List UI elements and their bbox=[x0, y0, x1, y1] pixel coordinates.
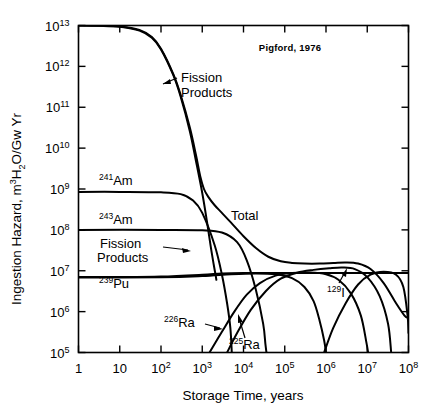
label-i129: 129I bbox=[327, 284, 345, 300]
ingestion-hazard-chart: Ingestion Hazard, m3H2O/Gw Yr Storage Ti… bbox=[0, 0, 435, 416]
x-axis-title: Storage Time, years bbox=[183, 388, 304, 403]
x-tick-label: 107 bbox=[358, 360, 377, 376]
annotation-fission-products-low: Fission Products bbox=[97, 236, 191, 265]
y-tick-label: 1010 bbox=[45, 140, 69, 156]
y-tick-label: 109 bbox=[50, 181, 69, 197]
fp-low-line2: Products bbox=[97, 250, 149, 265]
y-tick-label: 1012 bbox=[45, 58, 69, 74]
credit-note: Pigford, 1976 bbox=[259, 42, 321, 53]
fp-low-line1: Fission bbox=[100, 236, 141, 251]
fp-top-line2: Products bbox=[181, 85, 233, 100]
label-ra225: 225Ra bbox=[229, 336, 261, 352]
x-tick-label: 104 bbox=[234, 360, 253, 376]
y-tick-label: 108 bbox=[50, 222, 69, 238]
label-am243: 243Am bbox=[99, 211, 133, 227]
x-tick-label: 102 bbox=[151, 360, 170, 376]
x-tick-label: 103 bbox=[193, 360, 212, 376]
x-tick-label: 108 bbox=[399, 360, 418, 376]
label-pu239: 239Pu bbox=[99, 275, 129, 291]
y-tick-label: 1013 bbox=[45, 18, 69, 34]
svg-text:Ingestion Hazard, m3H2O/Gw Yr: Ingestion Hazard, m3H2O/Gw Yr bbox=[8, 112, 27, 305]
axis-ticks bbox=[79, 26, 409, 353]
y-axis-title-main: Ingestion Hazard, m bbox=[9, 184, 24, 305]
figure-container: Ingestion Hazard, m3H2O/Gw Yr Storage Ti… bbox=[0, 0, 435, 416]
y-tick-label: 107 bbox=[50, 263, 69, 279]
label-am241: 241Am bbox=[99, 172, 133, 188]
y-tick-label: 1011 bbox=[46, 99, 70, 115]
x-tick-label: 10 bbox=[113, 361, 127, 376]
fp-top-line1: Fission bbox=[181, 70, 222, 85]
annotation-ra226: 226Ra bbox=[164, 314, 223, 331]
data-curves bbox=[79, 26, 409, 353]
y-axis-title: Ingestion Hazard, m3H2O/Gw Yr bbox=[8, 112, 27, 305]
x-tick-label: 105 bbox=[275, 360, 294, 376]
plot-frame bbox=[79, 26, 409, 353]
label-total: Total bbox=[231, 208, 259, 223]
y-tick-label: 106 bbox=[50, 304, 69, 320]
x-tick-label: 106 bbox=[316, 360, 335, 376]
x-tick-label: 1 bbox=[75, 361, 82, 376]
label-ra226: 226Ra bbox=[164, 314, 196, 330]
y-tick-label: 105 bbox=[50, 345, 69, 361]
